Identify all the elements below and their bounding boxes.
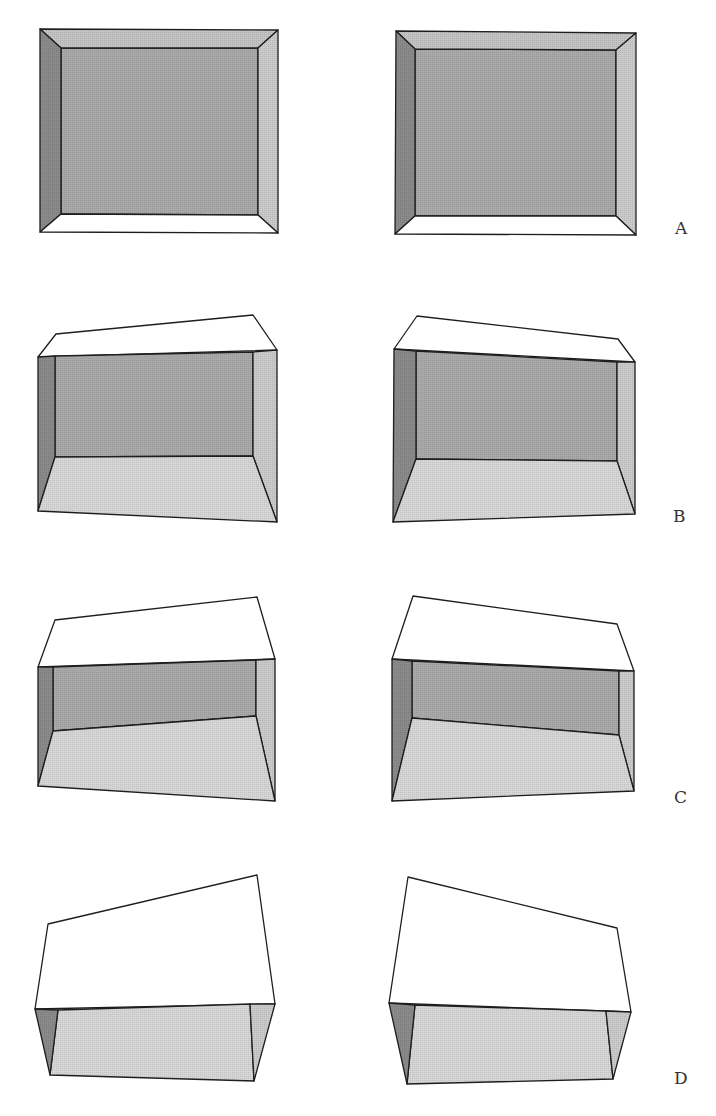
lid-face [392, 596, 634, 671]
room-view-left [35, 875, 275, 1081]
room-view-right [395, 31, 636, 235]
room-view-right [392, 596, 634, 801]
back-wall-texture [415, 49, 616, 216]
lid-face [38, 597, 275, 667]
stereo-row-c: C [38, 596, 687, 807]
floor-texture [407, 1005, 613, 1084]
room-view-left [38, 597, 275, 801]
row-label: B [673, 506, 686, 526]
lid-face [35, 875, 275, 1009]
room-view-left [38, 315, 277, 522]
room-view-right [393, 316, 635, 522]
row-label: A [674, 218, 688, 238]
right-wall-texture [258, 30, 278, 233]
right-wall-texture [616, 33, 636, 235]
stereo-room-figure: ABCD [0, 0, 716, 1116]
stereo-row-a: A [40, 29, 688, 238]
lid-face [389, 877, 631, 1012]
left-wall-texture [40, 29, 61, 232]
stereo-row-d: D [35, 875, 688, 1088]
row-label: C [674, 787, 687, 807]
back-wall-texture [61, 48, 258, 215]
room-view-left [40, 29, 278, 233]
back-wall-texture [416, 351, 617, 461]
floor-texture [393, 459, 635, 522]
floor-face [395, 216, 636, 235]
floor-texture [50, 1004, 254, 1081]
ceiling-texture [396, 31, 636, 50]
back-wall-texture [55, 352, 253, 457]
row-label: D [674, 1068, 688, 1088]
floor-texture [38, 456, 277, 522]
left-wall-texture [395, 31, 415, 234]
floor-face [40, 214, 278, 233]
stereo-row-b: B [38, 315, 686, 526]
ceiling-texture [40, 29, 278, 48]
lid-face [38, 315, 277, 357]
right-wall-texture [250, 1004, 275, 1081]
room-view-right [389, 877, 631, 1084]
